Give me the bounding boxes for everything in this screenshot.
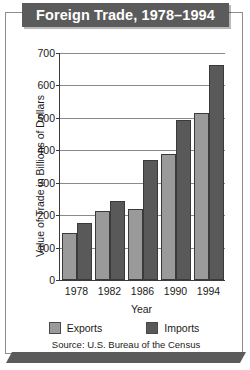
bar-imports-1994	[209, 65, 224, 280]
chart-figure: Foreign Trade, 1978–1994 Value of Trade …	[0, 0, 250, 370]
chart-legend: Exports Imports	[16, 322, 232, 334]
x-axis-tick-label: 1978	[65, 285, 88, 297]
legend-swatch-imports-icon	[146, 322, 158, 334]
bar-imports-1986	[143, 160, 158, 280]
y-axis-tick-label: 700	[37, 47, 55, 59]
bar-group	[159, 53, 192, 280]
y-axis-tick-label: 400	[37, 144, 55, 156]
bar-group	[60, 53, 93, 280]
bar-exports-1978	[62, 233, 77, 280]
y-axis-tick-label: 0	[49, 274, 55, 286]
y-axis-tick-label: 200	[37, 209, 55, 221]
bottom-banner-bar	[12, 352, 240, 363]
y-axis-tick-label: 500	[37, 112, 55, 124]
bar-group	[93, 53, 126, 280]
bars-layer	[60, 53, 225, 280]
bar-imports-1978	[77, 223, 92, 280]
x-axis-tick-label: 1982	[98, 285, 121, 297]
y-axis-tick-mark	[56, 280, 60, 281]
x-axis-tick-label: 1990	[164, 285, 187, 297]
legend-item-exports: Exports	[49, 322, 103, 334]
bar-imports-1990	[176, 120, 191, 280]
chart-title: Foreign Trade, 1978–1994	[22, 3, 229, 27]
x-axis-tick-label: 1986	[131, 285, 154, 297]
x-axis-title: Year	[59, 303, 224, 315]
legend-label-exports: Exports	[67, 322, 103, 334]
legend-item-imports: Imports	[146, 322, 199, 334]
x-axis-tick-label: 1994	[197, 285, 220, 297]
legend-label-imports: Imports	[164, 322, 199, 334]
source-note: Source: U.S. Bureau of the Census	[12, 339, 240, 350]
legend-swatch-exports-icon	[49, 322, 61, 334]
y-axis-tick-label: 600	[37, 79, 55, 91]
bar-exports-1986	[128, 209, 143, 280]
bar-group	[192, 53, 225, 280]
bar-imports-1982	[110, 201, 125, 280]
y-axis-tick-label: 300	[37, 177, 55, 189]
bar-exports-1982	[95, 211, 110, 280]
bar-group	[126, 53, 159, 280]
bar-exports-1994	[194, 113, 209, 280]
bar-exports-1990	[161, 154, 176, 280]
y-axis-tick-label: 100	[37, 242, 55, 254]
plot-area: 0100200300400500600700 19781982198619901…	[59, 53, 225, 281]
